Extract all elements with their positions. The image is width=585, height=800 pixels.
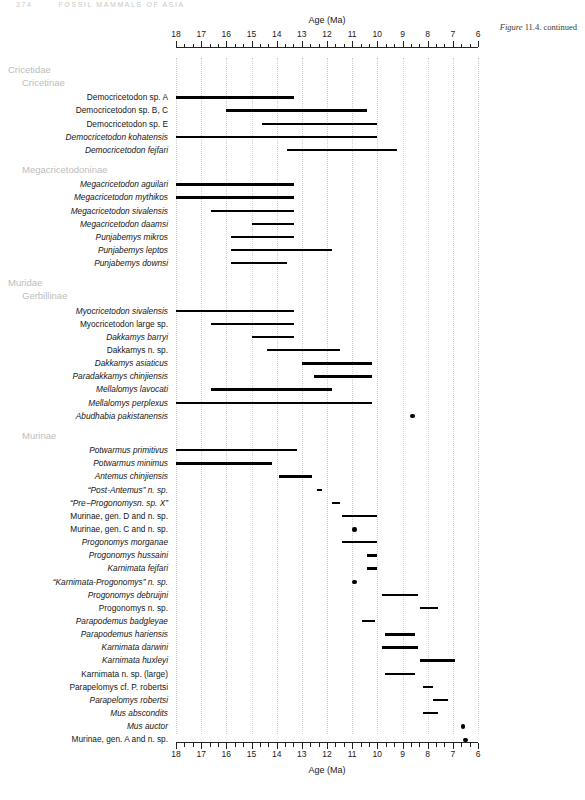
xtick-label-bottom-11: 11	[348, 749, 357, 759]
range-bar	[211, 323, 294, 325]
axis-title-bottom: Age (Ma)	[176, 765, 478, 775]
occurrence-dot	[352, 527, 356, 531]
xtick-label-bottom-13: 13	[297, 749, 306, 759]
range-bar	[231, 236, 294, 238]
taxon-row: Mellalomys lavocati	[176, 383, 478, 396]
taxon-row: Abudhabia pakistanensis	[176, 410, 478, 423]
range-bar	[211, 388, 332, 390]
xtick-14	[277, 41, 278, 47]
taxon-row: Karnimata darwini	[176, 641, 478, 654]
taxon-row: Parapelomys robertsi	[176, 694, 478, 707]
taxon-row: Dakkamys barryi	[176, 331, 478, 344]
taxon-label: Myocricetodon sivalensis	[76, 305, 168, 318]
xtick-label-top-12: 12	[322, 29, 331, 39]
group-label-muridae: Muridae	[8, 276, 42, 289]
xtick-9	[403, 41, 404, 47]
range-bar	[423, 712, 438, 714]
range-bar	[176, 402, 372, 404]
range-bar	[226, 109, 367, 111]
taxon-row: Mellalomys perplexus	[176, 397, 478, 410]
taxon-label: Murinae, gen. C and n. sp.	[70, 523, 168, 536]
taxon-label: Progonomys n. sp.	[99, 602, 168, 615]
xtick-11	[352, 41, 353, 47]
axis-title-top: Age (Ma)	[176, 15, 478, 25]
taxon-row: Democricetodon kohatensis	[176, 131, 478, 144]
taxon-row: Megacricetodon daamsi	[176, 218, 478, 231]
range-bar	[262, 123, 378, 125]
xtick-12	[327, 41, 328, 47]
plot-area: CricetidaeCricetinaeDemocricetodon sp. A…	[176, 58, 478, 734]
tick-labels-bottom: 1817161514131211109876	[176, 749, 478, 761]
taxon-label: Murinae, gen. A and n. sp.	[72, 733, 168, 746]
running-head-title: FOSSIL MAMMALS OF ASIA	[58, 1, 184, 8]
taxon-row: Progonomys n. sp.	[176, 602, 478, 615]
taxon-label: Progonomys hussaini	[89, 549, 168, 562]
xtick-minor	[470, 44, 471, 48]
taxon-row: Megacricetodon mythikos	[176, 191, 478, 204]
taxon-label: Progonomys morganae	[82, 536, 168, 549]
range-bar	[176, 96, 294, 98]
occurrence-dot	[463, 738, 467, 742]
taxon-label: Democricetodon kohatensis	[66, 131, 168, 144]
taxon-label: Megacricetodon sivalensis	[71, 205, 168, 218]
figure-caption: Figure 11.4. continued	[500, 22, 577, 32]
taxon-label: Dakkamys asiaticus	[95, 357, 168, 370]
occurrence-dot	[410, 414, 414, 418]
xtick-minor	[444, 44, 445, 48]
range-bar	[342, 541, 377, 543]
taxon-label: Parapelomys robertsi	[90, 694, 168, 707]
taxon-label: Democricetodon fejfari	[85, 144, 168, 157]
xtick-minor	[310, 44, 311, 48]
xtick-minor	[218, 44, 219, 48]
range-bar	[367, 567, 377, 569]
figure-caption-word: Figure	[500, 22, 523, 32]
xtick-16	[226, 41, 227, 47]
figure-caption-rest: 11.4. continued	[525, 22, 577, 32]
range-bar	[231, 249, 332, 251]
taxon-label: Antemus chinjiensis	[95, 470, 168, 483]
taxon-row: Myocricetodon sivalensis	[176, 305, 478, 318]
range-bar	[176, 196, 294, 198]
xtick-label-bottom-7: 7	[450, 749, 455, 759]
gridline-6	[478, 58, 480, 734]
taxon-label: Punjabemys mikros	[96, 231, 168, 244]
taxon-row: Punjabemys downsi	[176, 257, 478, 270]
xtick-minor	[394, 44, 395, 48]
taxon-label: Dakkamys barryi	[106, 331, 168, 344]
page-folio: 374	[16, 1, 32, 8]
xtick-label-top-8: 8	[425, 29, 430, 39]
taxon-label: Mus auctor	[127, 720, 168, 733]
taxon-label: Mus abscondits	[110, 707, 168, 720]
xtick-minor	[243, 44, 244, 48]
range-bar	[231, 262, 286, 264]
taxon-label: Megacricetodon aguilari	[80, 178, 168, 191]
taxon-label: Megacricetodon daamsi	[80, 218, 168, 231]
taxon-row: Murinae, gen. C and n. sp.	[176, 523, 478, 536]
taxon-row: Parapodemus badgleyae	[176, 615, 478, 628]
range-bar	[382, 646, 417, 648]
range-bar	[287, 149, 398, 151]
xtick-label-top-14: 14	[272, 29, 281, 39]
xtick-minor	[210, 44, 211, 48]
taxon-row: Mus auctor	[176, 720, 478, 733]
xtick-15	[252, 41, 253, 47]
occurrence-dot	[352, 580, 356, 584]
xtick-18	[176, 41, 177, 47]
range-bar	[267, 349, 340, 351]
taxon-row: Democricetodon sp. B, C	[176, 104, 478, 117]
taxon-row: Democricetodon fejfari	[176, 144, 478, 157]
taxon-label: “Pre−Progonomysn. sp. X”	[70, 497, 168, 510]
taxon-label: Mellalomys lavocati	[96, 383, 168, 396]
taxon-label: Abudhabia pakistanensis	[76, 410, 168, 423]
xtick-6	[478, 743, 479, 749]
taxon-label: Murinae, gen. D and n. sp.	[70, 510, 168, 523]
xtick-label-top-15: 15	[247, 29, 256, 39]
taxon-row: “Pre−Progonomysn. sp. X”	[176, 497, 478, 510]
taxon-row: Karnimata fejfari	[176, 562, 478, 575]
xtick-minor	[361, 44, 362, 48]
range-bar	[317, 489, 322, 491]
xtick-label-top-10: 10	[373, 29, 382, 39]
range-bar	[176, 183, 294, 185]
xtick-8	[428, 41, 429, 47]
taxon-row: Dakkamys asiaticus	[176, 357, 478, 370]
